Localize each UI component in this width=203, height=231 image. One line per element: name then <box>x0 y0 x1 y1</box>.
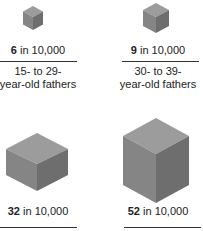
value-label: 32 in 10,000 <box>0 205 81 217</box>
value-label: 52 in 10,000 <box>115 205 201 217</box>
divider <box>0 227 77 228</box>
cube-icon <box>143 3 169 33</box>
group-label: 15- to 29- year-old fathers <box>0 65 81 91</box>
cube-icon <box>6 133 68 191</box>
panel-4: 52 in 10,000 <box>115 115 201 231</box>
cube-icon <box>123 118 189 203</box>
divider <box>122 61 199 62</box>
panel-30-39: 9 in 10,000 30- to 39- year-old fathers <box>115 0 201 115</box>
value-label: 9 in 10,000 <box>115 44 201 56</box>
panel-15-29: 6 in 10,000 15- to 29- year-old fathers <box>0 0 81 115</box>
value-label: 6 in 10,000 <box>0 44 81 56</box>
panel-3: 32 in 10,000 <box>0 115 81 231</box>
group-label: 30- to 39- year-old fathers <box>115 65 201 91</box>
divider <box>124 227 201 228</box>
cube-icon <box>23 6 43 30</box>
divider <box>0 61 77 62</box>
